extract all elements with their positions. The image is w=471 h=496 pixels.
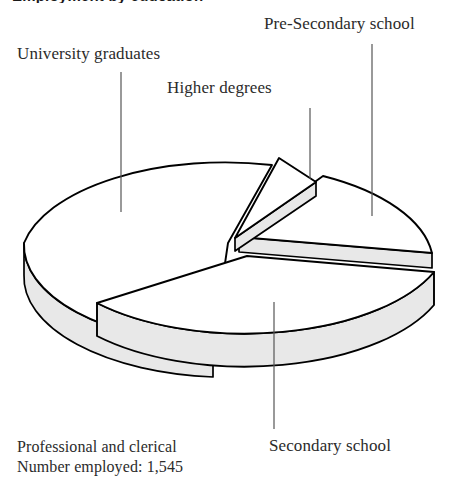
label-pre-secondary-school: Pre-Secondary school (264, 14, 415, 35)
footnote-line-1: Professional and clerical (17, 438, 177, 455)
label-higher-degrees: Higher degrees (167, 78, 272, 99)
label-university-graduates: University graduates (17, 44, 160, 65)
pie-chart-graphic (0, 0, 471, 496)
footnote-line-2: Number employed: 1,545 (17, 457, 183, 477)
chart-footnote: Professional and clerical Number employe… (17, 437, 183, 476)
label-secondary-school: Secondary school (269, 436, 391, 457)
chart-page: Employment by education (0, 0, 471, 496)
